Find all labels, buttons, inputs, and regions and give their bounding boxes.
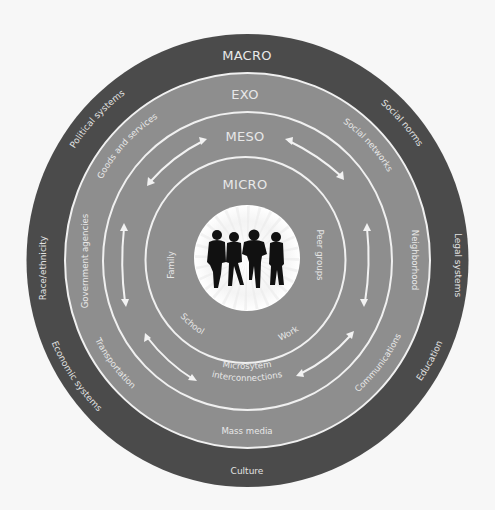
macro-item-race-ethnicity: Race/ethnicity (38, 235, 48, 300)
ecological-systems-diagram: MACRO EXO MESO MICRO Social norms Legal … (0, 0, 495, 510)
exo-item-government-agencies: Government agencies (80, 213, 90, 308)
micro-title: MICRO (223, 177, 268, 192)
micro-item-family: Family (166, 251, 176, 279)
macro-item-legal-systems: Legal systems (453, 233, 463, 298)
macro-item-culture: Culture (231, 466, 264, 476)
macro-title: MACRO (222, 48, 272, 63)
micro-item-peer-groups: Peer groups (315, 229, 325, 281)
exo-item-neighborhood: Neighborhood (410, 230, 420, 291)
exo-title: EXO (231, 87, 258, 102)
exo-item-mass-media: Mass media (221, 426, 272, 436)
meso-title: MESO (225, 129, 264, 144)
